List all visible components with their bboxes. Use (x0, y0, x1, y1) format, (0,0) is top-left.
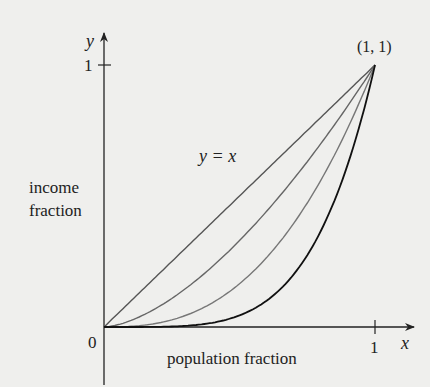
ylabel-line2: fraction (29, 201, 82, 220)
x-axis-label: population fraction (167, 349, 297, 368)
x-tick-label: 1 (370, 338, 379, 357)
x-axis-symbol: x (400, 333, 409, 353)
ylabel-line1: income (29, 178, 79, 197)
origin-label: 0 (88, 333, 97, 352)
identity-label: y = x (197, 146, 236, 166)
y-tick-label: 1 (84, 56, 93, 75)
point-label: (1, 1) (357, 38, 392, 56)
y-axis-symbol: y (84, 31, 94, 51)
curve-1 (104, 65, 375, 327)
lorenz-chart: y 1 (1, 1) y = x income fraction 0 1 x p… (0, 0, 430, 387)
curves-group (104, 65, 375, 327)
